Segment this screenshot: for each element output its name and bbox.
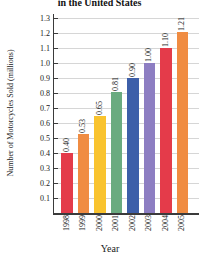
x-tick-label: 2001 <box>111 215 121 241</box>
y-axis-tick <box>54 108 58 109</box>
bar-1998 <box>61 153 73 213</box>
chart-title: in the United States <box>0 0 199 8</box>
x-tick-label: 1999 <box>78 215 88 241</box>
y-axis-tick <box>54 123 58 124</box>
y-tick-label: 1.3 <box>24 14 50 23</box>
y-tick-label: 1.0 <box>24 59 50 68</box>
y-axis-tick <box>54 138 58 139</box>
x-tick-label: 2003 <box>144 215 154 241</box>
plot-area: 0.10.20.30.40.50.60.70.80.91.01.11.21.30… <box>53 14 199 215</box>
y-tick-label: 0.6 <box>24 119 50 128</box>
y-tick-label: 0.8 <box>24 89 50 98</box>
y-axis-tick <box>54 63 58 64</box>
y-axis-tick <box>54 48 58 49</box>
y-tick-label: 0.7 <box>24 104 50 113</box>
y-axis-tick <box>54 78 58 79</box>
bar-2004 <box>160 48 172 213</box>
y-axis-label: Number of Motorcycles Sold (millions) <box>5 13 17 213</box>
x-axis-label: Year <box>30 243 190 254</box>
y-axis-tick <box>54 33 58 34</box>
x-tick-label: 2005 <box>177 215 187 241</box>
bar-value-label: 0.81 <box>111 65 121 91</box>
x-tick-label: 1998 <box>62 215 72 241</box>
chart-figure: in the United States Number of Motorcycl… <box>0 0 199 272</box>
y-axis-tick <box>54 198 58 199</box>
y-tick-label: 0.2 <box>24 179 50 188</box>
y-tick-label: 1.1 <box>24 44 50 53</box>
bar-value-label: 0.40 <box>62 126 72 152</box>
y-axis-tick <box>54 183 58 184</box>
bar-2001 <box>111 92 123 214</box>
bar-1999 <box>78 134 90 214</box>
bar-value-label: 0.65 <box>95 89 105 115</box>
y-tick-label: 0.4 <box>24 149 50 158</box>
bar-2000 <box>94 116 106 214</box>
bar-2005 <box>177 32 189 214</box>
x-tick-label: 2002 <box>128 215 138 241</box>
bar-value-label: 0.53 <box>78 107 88 133</box>
bar-value-label: 1.21 <box>177 5 187 31</box>
y-tick-label: 1.2 <box>24 29 50 38</box>
y-axis-tick <box>54 93 58 94</box>
bar-2002 <box>127 78 139 213</box>
x-tick-label: 2000 <box>95 215 105 241</box>
y-axis-tick <box>54 18 58 19</box>
y-tick-label: 0.1 <box>24 194 50 203</box>
y-axis-tick <box>54 153 58 154</box>
y-axis-tick <box>54 168 58 169</box>
y-tick-label: 0.5 <box>24 134 50 143</box>
bar-value-label: 0.90 <box>128 51 138 77</box>
y-tick-label: 0.3 <box>24 164 50 173</box>
bar-2003 <box>144 63 156 213</box>
x-tick-label: 2004 <box>161 215 171 241</box>
bar-value-label: 1.00 <box>144 36 154 62</box>
y-tick-label: 0.9 <box>24 74 50 83</box>
bar-value-label: 1.10 <box>161 21 171 47</box>
